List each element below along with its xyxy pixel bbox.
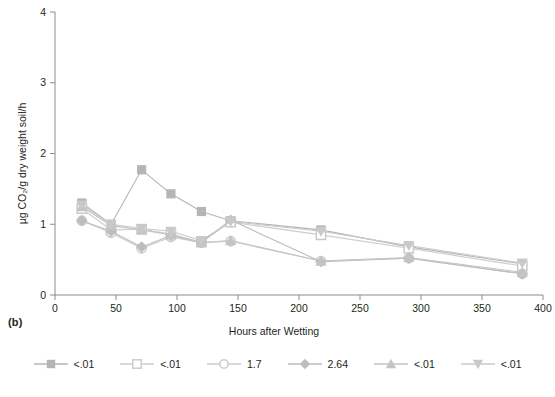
y-tick-label: 4 — [40, 6, 46, 18]
legend-marker-filled-square-icon — [34, 358, 68, 370]
legend-item[interactable]: <.01 — [34, 358, 95, 370]
x-tick-label: 250 — [351, 302, 369, 314]
legend-item[interactable]: <.01 — [374, 358, 435, 370]
x-tick-label: 400 — [534, 302, 552, 314]
legend-item[interactable]: 2.64 — [288, 358, 348, 370]
legend-label: 2.64 — [328, 358, 348, 370]
series-line — [82, 170, 522, 264]
series-line — [82, 207, 522, 273]
x-tick-label: 0 — [52, 302, 58, 314]
legend-label: <.01 — [414, 358, 435, 370]
x-tick-label: 200 — [290, 302, 308, 314]
legend-marker-filled-diamond-icon — [288, 358, 322, 370]
x-tick-label: 350 — [473, 302, 491, 314]
legend-label: 1.7 — [247, 358, 262, 370]
chart-container: 01234050100150200250300350400Hours after… — [0, 0, 555, 397]
line-chart-svg: 01234050100150200250300350400Hours after… — [0, 0, 555, 397]
x-tick-label: 300 — [412, 302, 430, 314]
series-1 — [77, 204, 527, 271]
panel-label: (b) — [8, 316, 23, 328]
legend-item[interactable]: <.01 — [461, 358, 522, 370]
legend-marker-open-square-icon — [120, 358, 154, 370]
marker-filled-square — [137, 165, 146, 174]
legend-item[interactable]: 1.7 — [207, 358, 262, 370]
legend-marker-open-circle-icon — [207, 358, 241, 370]
x-tick-label: 50 — [110, 302, 122, 314]
chart-legend: <.01<.011.72.64<.01<.01 — [0, 358, 555, 370]
legend-label: <.01 — [160, 358, 181, 370]
y-tick-label: 3 — [40, 76, 46, 88]
y-tick-label: 0 — [40, 289, 46, 301]
y-axis-label: µg CO₂/g dry weight soil/h — [16, 103, 28, 225]
legend-marker-filled-triangle-up-icon — [374, 358, 408, 370]
y-tick-label: 2 — [40, 147, 46, 159]
legend-marker-filled-triangle-down-icon — [461, 358, 495, 370]
legend-item[interactable]: <.01 — [120, 358, 181, 370]
marker-filled-square — [166, 189, 175, 198]
x-axis-label: Hours after Wetting — [229, 325, 319, 337]
series-5 — [76, 201, 528, 269]
x-tick-label: 100 — [168, 302, 186, 314]
marker-filled-diamond — [76, 215, 87, 226]
marker-filled-square — [197, 207, 206, 216]
legend-label: <.01 — [74, 358, 95, 370]
y-tick-label: 1 — [40, 218, 46, 230]
x-tick-label: 150 — [229, 302, 247, 314]
legend-label: <.01 — [501, 358, 522, 370]
